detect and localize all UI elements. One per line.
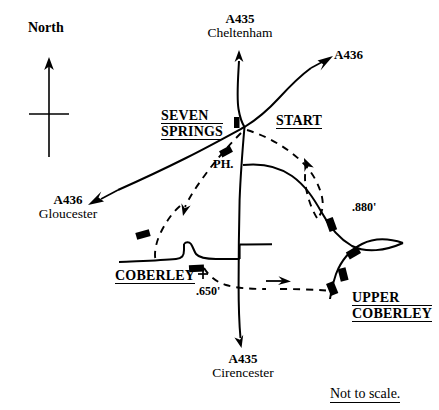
- place-label-upper-coberley: UPPER COBERLEY: [352, 290, 432, 322]
- scale-note-wrapper: Not to scale.: [330, 384, 400, 401]
- road-label-a436-gloucester: A436 Gloucester: [25, 193, 111, 222]
- scale-note: Not to scale.: [330, 386, 400, 403]
- place-line: SEVEN: [161, 108, 223, 124]
- compass-label: North: [28, 20, 64, 35]
- route-dashed-south-leg: [204, 268, 326, 291]
- place-line: COBERLEY: [352, 306, 432, 322]
- place-line: START: [276, 113, 322, 129]
- road-destination: Gloucester: [25, 207, 111, 222]
- place-label-seven-springs: SEVEN SPRINGS: [161, 108, 223, 140]
- block-marker-880: [325, 217, 337, 232]
- spot-height-650: .650': [196, 285, 220, 298]
- road-label-a435-cheltenham: A435 Cheltenham: [195, 12, 285, 41]
- block-marker-coberley-west: [135, 229, 150, 240]
- road-a435: [234, 50, 244, 348]
- road-label-a436-northeast: A436: [334, 48, 363, 62]
- pub-label-ph: PH.: [213, 158, 233, 172]
- road-upper-coberley-loop: [243, 164, 403, 250]
- place-label-start: START: [276, 113, 322, 129]
- road-coberley-village: [119, 242, 272, 262]
- block-marker-seven-springs: [234, 117, 240, 128]
- place-line: UPPER: [352, 290, 432, 306]
- place-label-coberley: COBERLEY: [115, 268, 195, 284]
- route-dashed-east-loop: [247, 130, 323, 218]
- place-line: SPRINGS: [161, 124, 223, 140]
- road-number: A435: [198, 352, 288, 366]
- road-label-a435-cirencester: A435 Cirencester: [198, 352, 288, 381]
- road-number: A435: [195, 12, 285, 26]
- compass-rose: [29, 57, 69, 157]
- sketch-map: North A435 Cheltenham A436 SEVEN SPRINGS…: [0, 0, 439, 410]
- road-destination: Cirencester: [198, 366, 288, 381]
- block-marker-upper-coberley-m: [338, 267, 349, 282]
- spot-height-880: .880': [352, 201, 376, 214]
- road-destination: Cheltenham: [195, 26, 285, 41]
- block-marker-upper-coberley-s: [326, 281, 338, 296]
- place-line: COBERLEY: [115, 268, 195, 284]
- road-number: A436: [25, 193, 111, 207]
